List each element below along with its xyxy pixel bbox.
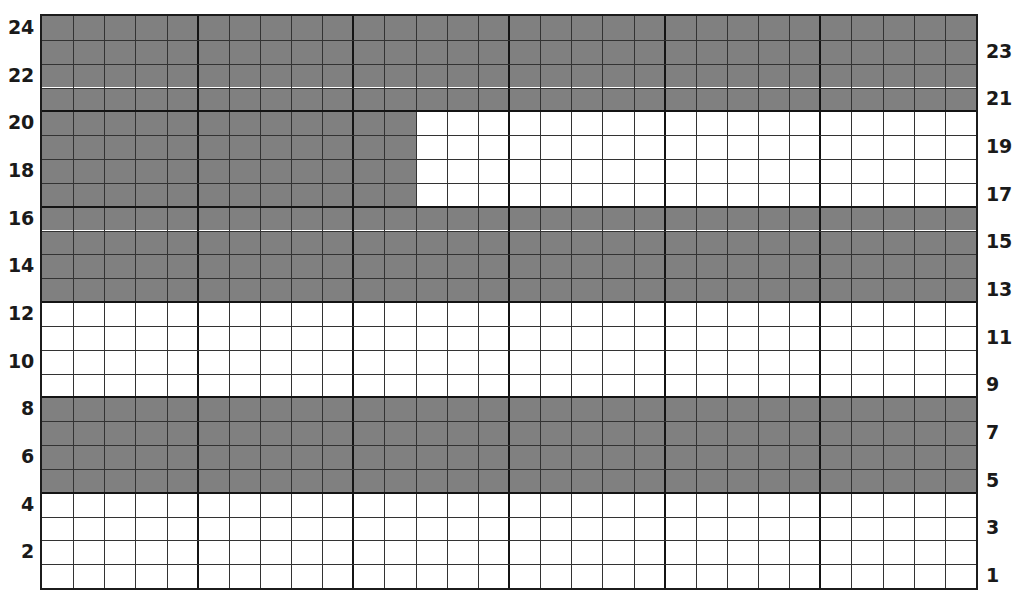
grid-cell[interactable] [73, 350, 104, 374]
grid-cell[interactable] [945, 183, 976, 207]
grid-cell[interactable] [322, 183, 353, 207]
grid-cell[interactable] [73, 445, 104, 469]
grid-cell[interactable] [851, 540, 882, 564]
grid-cell[interactable] [104, 16, 135, 40]
grid-cell[interactable] [914, 254, 945, 278]
grid-cell[interactable] [820, 469, 851, 493]
grid-cell[interactable] [851, 493, 882, 517]
grid-cell[interactable] [478, 350, 509, 374]
grid-cell[interactable] [727, 421, 758, 445]
grid-cell[interactable] [416, 88, 447, 112]
grid-cell[interactable] [602, 564, 633, 588]
grid-cell[interactable] [229, 302, 260, 326]
grid-cell[interactable] [509, 231, 540, 255]
grid-cell[interactable] [104, 40, 135, 64]
grid-cell[interactable] [42, 88, 73, 112]
grid-cell[interactable] [42, 16, 73, 40]
grid-cell[interactable] [447, 278, 478, 302]
grid-cell[interactable] [198, 278, 229, 302]
grid-cell[interactable] [509, 469, 540, 493]
grid-cell[interactable] [571, 469, 602, 493]
grid-cell[interactable] [478, 421, 509, 445]
grid-cell[interactable] [665, 207, 696, 231]
grid-cell[interactable] [945, 40, 976, 64]
grid-cell[interactable] [478, 493, 509, 517]
grid-cell[interactable] [602, 350, 633, 374]
grid-cell[interactable] [384, 16, 415, 40]
grid-cell[interactable] [540, 16, 571, 40]
grid-cell[interactable] [73, 302, 104, 326]
grid-cell[interactable] [883, 254, 914, 278]
grid-cell[interactable] [260, 278, 291, 302]
grid-cell[interactable] [634, 493, 665, 517]
grid-cell[interactable] [914, 540, 945, 564]
grid-cell[interactable] [322, 397, 353, 421]
grid-cell[interactable] [634, 159, 665, 183]
grid-cell[interactable] [789, 421, 820, 445]
grid-cell[interactable] [478, 469, 509, 493]
grid-cell[interactable] [820, 88, 851, 112]
grid-cell[interactable] [883, 278, 914, 302]
grid-cell[interactable] [571, 278, 602, 302]
grid-cell[interactable] [883, 350, 914, 374]
grid-cell[interactable] [820, 540, 851, 564]
grid-cell[interactable] [291, 350, 322, 374]
grid-cell[interactable] [914, 564, 945, 588]
grid-cell[interactable] [384, 302, 415, 326]
grid-cell[interactable] [851, 564, 882, 588]
grid-cell[interactable] [634, 16, 665, 40]
grid-cell[interactable] [509, 421, 540, 445]
grid-cell[interactable] [229, 111, 260, 135]
grid-cell[interactable] [758, 350, 789, 374]
grid-cell[interactable] [602, 40, 633, 64]
grid-cell[interactable] [447, 540, 478, 564]
grid-cell[interactable] [945, 64, 976, 88]
grid-cell[interactable] [73, 493, 104, 517]
grid-cell[interactable] [291, 421, 322, 445]
grid-cell[interactable] [478, 302, 509, 326]
grid-cell[interactable] [820, 445, 851, 469]
grid-cell[interactable] [229, 445, 260, 469]
grid-cell[interactable] [696, 421, 727, 445]
grid-cell[interactable] [73, 88, 104, 112]
grid-cell[interactable] [540, 231, 571, 255]
grid-cell[interactable] [945, 16, 976, 40]
grid-cell[interactable] [789, 350, 820, 374]
grid-cell[interactable] [758, 135, 789, 159]
grid-cell[interactable] [727, 88, 758, 112]
grid-cell[interactable] [696, 40, 727, 64]
grid-cell[interactable] [509, 278, 540, 302]
grid-cell[interactable] [571, 397, 602, 421]
grid-cell[interactable] [789, 326, 820, 350]
grid-cell[interactable] [945, 517, 976, 541]
grid-cell[interactable] [322, 231, 353, 255]
grid-cell[interactable] [198, 421, 229, 445]
grid-cell[interactable] [509, 88, 540, 112]
grid-cell[interactable] [540, 111, 571, 135]
grid-cell[interactable] [322, 40, 353, 64]
grid-cell[interactable] [540, 183, 571, 207]
grid-cell[interactable] [416, 469, 447, 493]
grid-cell[interactable] [447, 302, 478, 326]
grid-cell[interactable] [634, 302, 665, 326]
grid-cell[interactable] [789, 207, 820, 231]
grid-cell[interactable] [540, 326, 571, 350]
grid-cell[interactable] [851, 350, 882, 374]
grid-cell[interactable] [135, 374, 166, 398]
grid-cell[interactable] [353, 183, 384, 207]
grid-cell[interactable] [758, 421, 789, 445]
grid-cell[interactable] [291, 40, 322, 64]
grid-cell[interactable] [260, 207, 291, 231]
grid-cell[interactable] [322, 135, 353, 159]
grid-cell[interactable] [696, 278, 727, 302]
grid-cell[interactable] [820, 207, 851, 231]
grid-cell[interactable] [727, 207, 758, 231]
grid-cell[interactable] [322, 159, 353, 183]
grid-cell[interactable] [727, 111, 758, 135]
grid-cell[interactable] [42, 135, 73, 159]
grid-cell[interactable] [260, 231, 291, 255]
grid-cell[interactable] [447, 374, 478, 398]
grid-cell[interactable] [478, 88, 509, 112]
grid-cell[interactable] [820, 302, 851, 326]
grid-cell[interactable] [416, 397, 447, 421]
